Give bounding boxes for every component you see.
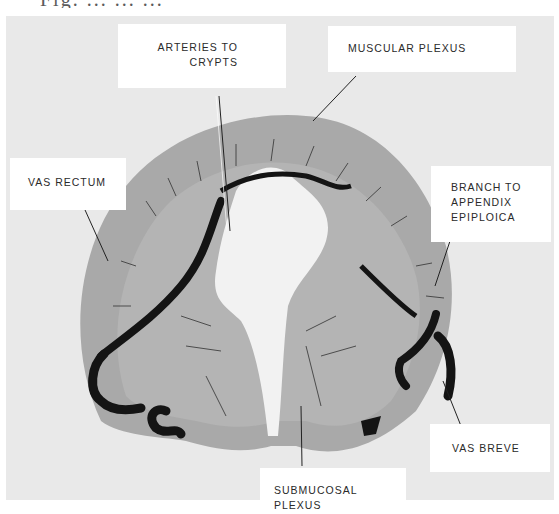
- figure-image: ARTERIES TO CRYPTS MUSCULAR PLEXUS VAS R…: [6, 16, 554, 500]
- caption-text: Fig. ... ... ...: [0, 0, 559, 8]
- label-vas-rectum: VAS RECTUM: [10, 158, 126, 210]
- label-branch-to-appendix-epiploica: BRANCH TO APPENDIX EPIPLOICA: [431, 166, 551, 242]
- label-line: ARTERIES TO: [154, 40, 238, 55]
- figure-caption-clipped: Fig. ... ... ...: [0, 0, 559, 8]
- label-line: BRANCH TO: [451, 180, 551, 195]
- label-line: PLEXUS: [274, 498, 406, 513]
- label-line: APPENDIX: [451, 195, 551, 210]
- label-muscular-plexus: MUSCULAR PLEXUS: [328, 26, 516, 72]
- label-line: VAS BREVE: [452, 441, 550, 456]
- label-vas-breve: VAS BREVE: [430, 424, 550, 472]
- label-line: MUSCULAR PLEXUS: [348, 41, 516, 56]
- label-arteries-to-crypts: ARTERIES TO CRYPTS: [118, 24, 286, 88]
- label-line: EPIPLOICA: [451, 210, 551, 225]
- label-line: VAS RECTUM: [28, 175, 126, 190]
- label-submucosal-plexus: SUBMUCOSAL PLEXUS: [260, 468, 406, 514]
- label-line: CRYPTS: [154, 55, 238, 70]
- label-line: SUBMUCOSAL: [274, 483, 406, 498]
